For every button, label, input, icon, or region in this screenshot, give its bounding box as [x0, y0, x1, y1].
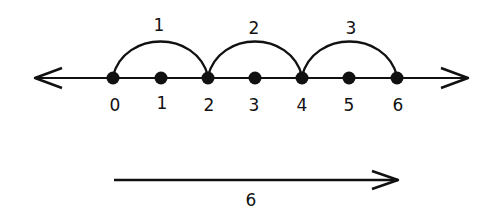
jump-arc-2	[208, 42, 302, 77]
jump-arc-1	[113, 42, 208, 77]
tick-label: 6	[393, 95, 404, 115]
jump-label: 1	[154, 15, 165, 35]
tick-label: 0	[110, 95, 121, 115]
tick-label: 3	[249, 95, 260, 115]
jump-label: 2	[249, 18, 260, 38]
point-2	[202, 72, 215, 85]
tick-label: 1	[157, 93, 168, 113]
tick-label: 4	[297, 95, 308, 115]
number-line-diagram: 1 2 3 0 1 2 3 4 5 6 6	[0, 0, 493, 221]
tick-label: 2	[204, 95, 215, 115]
point-0	[107, 72, 120, 85]
point-5	[343, 72, 356, 85]
total-label: 6	[246, 190, 257, 210]
jump-arc-3	[302, 42, 397, 77]
point-4	[296, 72, 309, 85]
jump-label: 3	[346, 18, 357, 38]
tick-label: 5	[344, 95, 355, 115]
point-6	[391, 72, 404, 85]
point-3	[249, 72, 262, 85]
point-1	[155, 72, 168, 85]
